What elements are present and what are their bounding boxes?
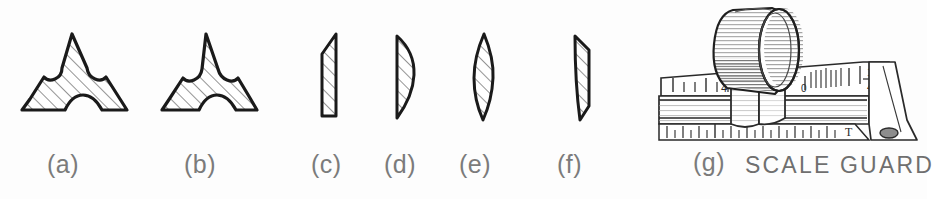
blade-section-lens-icon bbox=[462, 28, 510, 138]
figure-label-d: (d) bbox=[384, 150, 416, 179]
figure-label-f: (f) bbox=[557, 150, 582, 179]
trefoil-section-wide-icon bbox=[8, 22, 138, 142]
trefoil-section-narrow-icon bbox=[144, 22, 269, 142]
figure-label-c: (c) bbox=[311, 150, 342, 179]
ruler-number-zero: 0 bbox=[801, 83, 807, 94]
figure-label-b: (b) bbox=[184, 150, 216, 179]
figure-label-g: (g) bbox=[693, 148, 725, 177]
figure-label-e: (e) bbox=[459, 150, 491, 179]
guard-end-piece bbox=[869, 62, 917, 140]
blade-section-convex-icon bbox=[385, 28, 433, 138]
figure-label-a: (a) bbox=[47, 150, 79, 179]
blade-section-straight-icon bbox=[312, 28, 358, 138]
ruler-letter-t: T bbox=[845, 125, 853, 139]
ruler-lower-scale: T bbox=[659, 124, 869, 140]
scale-guard-caption: SCALE GUARD bbox=[745, 152, 934, 179]
scale-guard-pictorial-icon: 4 92 0 1 4 bbox=[655, 0, 927, 150]
blade-section-skew-icon bbox=[562, 28, 610, 138]
